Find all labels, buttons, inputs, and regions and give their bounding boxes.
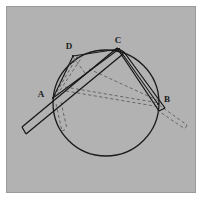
vertex-marker-D [72, 55, 74, 57]
dashed-alternate-positions [54, 55, 187, 131]
rod-long-arm-tip-cap [22, 127, 26, 134]
diagram-canvas: A B C D [7, 7, 196, 193]
diagram-panel: A B C D [6, 6, 196, 193]
dashed-stub-below-A-right [61, 102, 67, 129]
dashed-rod-extension-upper [159, 105, 187, 125]
rod-short-arm-left-edge [117, 48, 159, 111]
dashed-line-mid-to-B-b [66, 91, 160, 107]
label-point-c: C [115, 35, 122, 45]
vertex-marker-C [118, 48, 120, 50]
dashed-rod-extension-lower [157, 110, 185, 129]
dashed-line-D-cross [73, 57, 85, 73]
vertex-marker-A [52, 97, 54, 99]
label-point-d: D [66, 41, 73, 51]
dashed-stub-below-A-cap [62, 129, 67, 131]
rod-short-arm-tip-cap [159, 108, 165, 111]
dashed-rod-extension-cap [185, 125, 187, 129]
rod-long-arm-upper-edge [22, 48, 117, 127]
label-point-b: B [164, 94, 170, 104]
chord-A-D [53, 56, 73, 98]
rod-short-arm-right-edge [124, 52, 165, 108]
label-point-a: A [38, 89, 45, 99]
figure-root: A B C D [0, 0, 202, 199]
vertex-marker-B [157, 103, 159, 105]
